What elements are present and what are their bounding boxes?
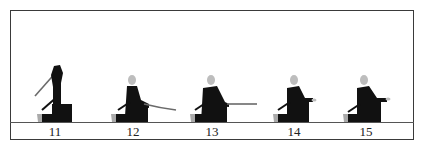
figure-15 bbox=[342, 74, 402, 124]
frame-number-12: 12 bbox=[118, 124, 148, 140]
figure-12 bbox=[110, 74, 180, 124]
frame-number-13: 13 bbox=[197, 124, 227, 140]
frame-number-14: 14 bbox=[279, 124, 309, 140]
frame-number-11: 11 bbox=[40, 124, 70, 140]
figure-11 bbox=[32, 62, 82, 124]
figure-13 bbox=[189, 74, 259, 124]
frame-number-15: 15 bbox=[351, 124, 381, 140]
figure-14 bbox=[272, 74, 332, 124]
